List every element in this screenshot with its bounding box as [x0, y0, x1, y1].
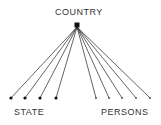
state-node — [23, 96, 26, 99]
persons-node — [108, 97, 110, 99]
group-label-state: STATE — [14, 107, 44, 117]
edge-persons-3 — [77, 27, 136, 98]
state-node — [54, 96, 57, 99]
edges — [11, 27, 150, 98]
persons-node — [149, 97, 151, 99]
edge-state-3 — [56, 27, 77, 98]
group-label-persons: PERSONS — [101, 107, 149, 117]
edge-state-1 — [25, 27, 77, 98]
edge-state-0 — [11, 27, 77, 98]
root-label: COUNTRY — [55, 7, 103, 17]
persons-node — [95, 97, 97, 99]
persons-node — [135, 97, 137, 99]
state-node — [38, 96, 41, 99]
child-nodes — [9, 96, 151, 99]
state-node — [9, 96, 12, 99]
edge-state-2 — [40, 27, 77, 98]
edge-persons-4 — [77, 27, 150, 98]
edge-persons-2 — [77, 27, 122, 98]
persons-node — [121, 97, 123, 99]
root-node — [75, 23, 80, 28]
